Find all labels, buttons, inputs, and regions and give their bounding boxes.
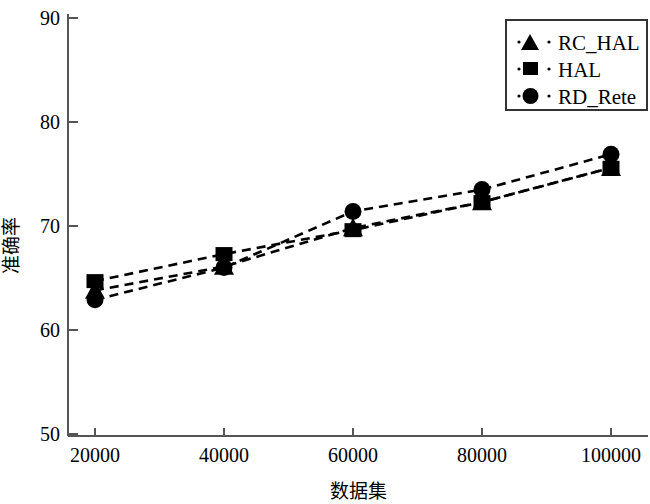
- y-tick-label-70: 70: [40, 215, 60, 237]
- circle-marker-icon: [474, 181, 491, 198]
- x-tick-label-60000: 60000: [328, 444, 378, 466]
- x-axis-title: 数据集: [330, 480, 387, 502]
- square-marker-icon: [603, 161, 620, 175]
- x-tick-label-80000: 80000: [457, 444, 507, 466]
- y-tick-label-60: 60: [40, 319, 60, 341]
- x-tick-label-40000: 40000: [199, 444, 249, 466]
- y-tick-label-50: 50: [40, 423, 60, 445]
- circle-marker-icon: [603, 146, 620, 163]
- x-tick-label-100000: 100000: [581, 444, 641, 466]
- circle-marker-icon: [87, 291, 104, 308]
- legend-label-hal: HAL: [558, 58, 601, 82]
- square-marker-icon: [216, 247, 233, 261]
- x-tick-label-20000: 20000: [70, 444, 120, 466]
- y-tick-label-90: 90: [40, 7, 60, 29]
- circle-marker-icon: [345, 203, 362, 220]
- square-marker-icon: [87, 274, 104, 288]
- square-marker-icon: [345, 223, 362, 237]
- y-axis-title: 准确率: [0, 217, 22, 274]
- chart-legend: RC_HAL HAL RD_Rete: [506, 20, 647, 110]
- circle-marker-icon: [216, 259, 233, 276]
- legend-label-rd-rete: RD_Rete: [558, 85, 636, 109]
- y-tick-label-80: 80: [40, 111, 60, 133]
- line-chart-plot: 90 80 70 60 50 20000 40000 60000 80000 1…: [0, 0, 650, 504]
- chart-container: 90 80 70 60 50 20000 40000 60000 80000 1…: [0, 0, 650, 504]
- legend-label-rc-hal: RC_HAL: [558, 31, 640, 55]
